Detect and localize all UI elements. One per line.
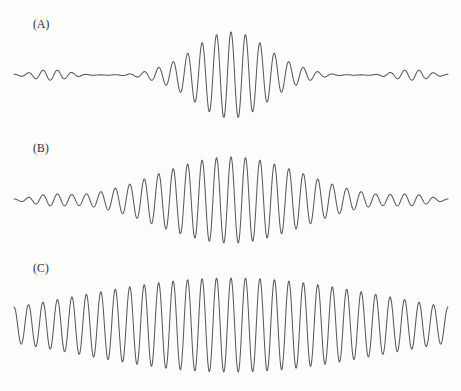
figure-canvas: (A) (B) (C) bbox=[0, 0, 461, 391]
panel-label-c: (C) bbox=[33, 262, 49, 274]
wave-panel-c bbox=[0, 255, 461, 391]
waveform-a-line bbox=[14, 32, 448, 117]
panel-label-a: (A) bbox=[33, 18, 50, 30]
waveform-b-plot bbox=[0, 130, 461, 255]
waveform-b-line bbox=[14, 157, 448, 243]
panel-label-b: (B) bbox=[33, 142, 49, 154]
waveform-a-plot bbox=[0, 0, 461, 130]
wave-panel-a bbox=[0, 0, 461, 130]
waveform-c-plot bbox=[0, 255, 461, 391]
waveform-c-line bbox=[14, 278, 448, 372]
wave-panel-b bbox=[0, 130, 461, 255]
